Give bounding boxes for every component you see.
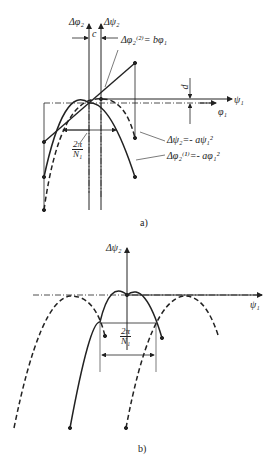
axis-label-dpsi2: Δψ₂ xyxy=(104,17,120,27)
figure-a xyxy=(42,24,232,212)
period-label-a: 2π N₁ xyxy=(72,140,83,160)
axis-label-psi1-b: ψ₁ xyxy=(250,300,260,310)
caption-a: a) xyxy=(140,217,148,228)
period-den-b: N₁ xyxy=(121,337,130,346)
label-solid-parabola: Δφ₂⁽¹⁾=- aφ₁² xyxy=(167,151,219,161)
label-dashed-parabola: Δψ₂=- aψ₁² xyxy=(167,135,213,145)
diagram-canvas xyxy=(0,0,274,462)
dim-label-c: c xyxy=(92,29,96,39)
solid-curve xyxy=(70,291,162,428)
label-line: Δφ₂⁽²⁾= bφ₁ xyxy=(121,35,167,45)
dashed-curve-right xyxy=(126,296,218,428)
axis-label-dpsi2-b: Δψ₂ xyxy=(106,243,122,253)
dim-label-d: d xyxy=(180,85,190,90)
period-label-b: 2π N₁ xyxy=(120,327,131,347)
caption-b: b) xyxy=(138,443,146,454)
axis-label-phi1: φ₁ xyxy=(218,107,227,117)
axis-label-psi1: ψ₁ xyxy=(234,95,244,105)
axis-label-dphi2: Δφ₂ xyxy=(69,17,84,27)
period-den: N₁ xyxy=(73,150,82,159)
figure-b xyxy=(14,248,262,430)
dashed-curve-left xyxy=(14,296,105,428)
